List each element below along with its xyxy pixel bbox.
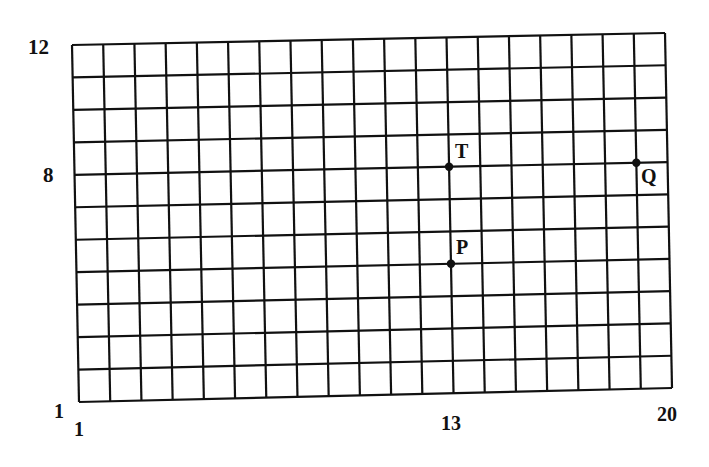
grid-vertical-line [447,37,454,393]
y-axis-label-bottom: 1 [54,401,64,421]
grid-vertical-line [72,45,79,402]
x-axis-label-right: 20 [657,404,677,424]
coordinate-grid-diagram: 12 8 1 1 13 20 T P Q [0,0,709,467]
grid-vertical-line [478,37,485,393]
grid-vertical-line [228,42,235,398]
x-axis-label-mid: 13 [441,413,461,433]
grid-horizontal-line [73,98,666,110]
grid-horizontal-line [78,356,671,370]
grid [0,0,709,467]
grid-vertical-line [540,36,547,391]
y-axis-label-top: 12 [28,37,49,58]
grid-vertical-line [634,34,641,389]
grid-vertical-line [603,34,610,389]
grid-horizontal-line [75,162,668,175]
grid-horizontal-line [76,227,669,240]
grid-vertical-line [134,44,141,401]
grid-vertical-line [415,38,422,394]
y-axis-label-mid: 8 [43,165,54,186]
grid-vertical-line [509,36,516,392]
grid-vertical-line [259,41,266,397]
grid-horizontal-line [79,388,672,402]
grid-horizontal-line [72,33,665,45]
grid-horizontal-line [75,194,668,207]
grid-vertical-line [290,41,297,397]
grid-horizontal-line [76,259,669,272]
grid-horizontal-line [73,65,666,77]
point-label-q: Q [641,166,657,186]
point-p-marker [447,260,455,268]
point-label-t: T [455,141,468,161]
grid-horizontal-line [74,130,667,143]
point-t-marker [445,163,453,171]
grid-horizontal-line [78,323,671,337]
grid-vertical-line [665,33,672,388]
point-label-p: P [456,237,468,257]
point-q-marker [632,159,640,167]
grid-vertical-line [197,42,204,399]
grid-lines [72,33,672,402]
grid-vertical-line [322,40,329,396]
grid-vertical-line [103,44,110,401]
grid-vertical-line [353,39,360,395]
grid-vertical-line [571,35,578,390]
grid-vertical-line [166,43,173,400]
grid-horizontal-line [77,291,670,304]
x-axis-label-left: 1 [74,419,84,439]
grid-vertical-line [384,39,391,395]
